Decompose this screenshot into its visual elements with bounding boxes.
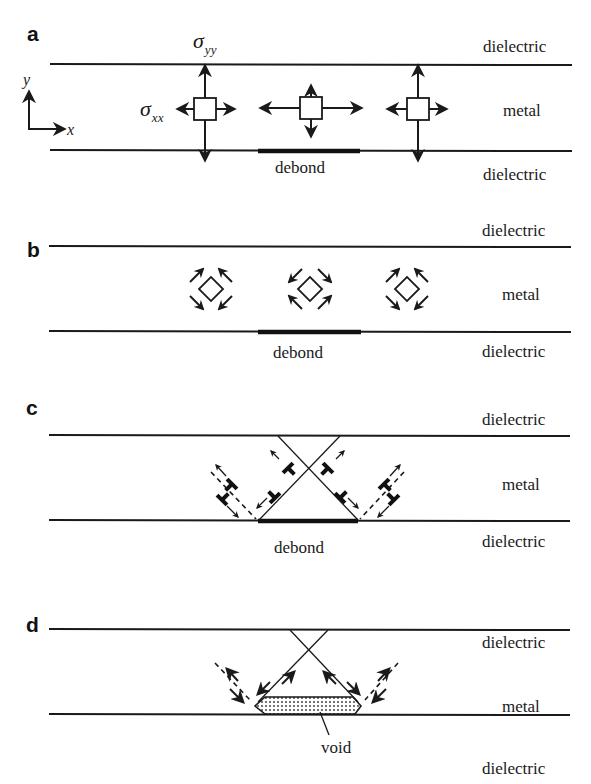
stress-element-1 <box>178 66 234 160</box>
panel-c: c dielectric metal dielectric debond <box>26 396 570 557</box>
slip-plane-1 <box>278 436 358 520</box>
stress-void-diagram: a dielectric metal dielectric debond y x… <box>0 0 591 784</box>
svg-text:σxx: σxx <box>140 96 164 125</box>
panel-label-d: d <box>26 613 39 636</box>
middle-layer-label: metal <box>503 101 541 120</box>
stress-element-3 <box>388 66 446 160</box>
stress-element-2 <box>261 86 361 136</box>
top-interface-line <box>50 64 572 65</box>
slip-plane-1 <box>290 630 358 702</box>
svg-text:σyy: σyy <box>193 28 217 57</box>
top-layer-label: dielectric <box>482 410 546 429</box>
top-interface-line <box>49 629 570 630</box>
sigma-yy-label: σyy <box>193 28 217 57</box>
top-layer-label: dielectric <box>482 221 546 240</box>
sigma-xx-label: σxx <box>140 96 164 125</box>
middle-layer-label: metal <box>502 285 540 304</box>
coordinate-axes-icon: y x <box>21 71 74 138</box>
shear-element-1 <box>190 269 232 309</box>
slip-plane-2 <box>259 436 340 520</box>
top-interface-line <box>49 246 571 247</box>
slip-plane-2 <box>258 630 328 702</box>
middle-layer-label: metal <box>502 697 540 716</box>
debond-label: debond <box>273 343 324 362</box>
panel-d: d dielectric metal dielectric void <box>26 613 570 778</box>
void-label: void <box>321 738 352 757</box>
panel-label-a: a <box>27 22 39 45</box>
top-layer-label: dielectric <box>482 633 546 652</box>
shear-element-3 <box>386 269 428 309</box>
top-layer-label: dielectric <box>483 37 547 56</box>
panel-label-c: c <box>26 396 38 419</box>
x-axis-label: x <box>66 121 74 138</box>
bottom-layer-label: dielectric <box>482 759 546 778</box>
debond-label: debond <box>274 538 325 557</box>
bottom-layer-label: dielectric <box>482 342 546 361</box>
void-region <box>255 697 361 714</box>
panel-label-b: b <box>27 238 40 261</box>
panel-a: a dielectric metal dielectric debond y x… <box>21 22 572 184</box>
shear-element-2 <box>289 269 331 309</box>
y-axis-label: y <box>21 71 31 89</box>
top-interface-line <box>49 435 570 436</box>
bottom-layer-label: dielectric <box>483 165 547 184</box>
debond-label: debond <box>275 158 326 177</box>
panel-b: b dielectric metal dielectric debond <box>27 221 571 362</box>
middle-layer-label: metal <box>502 475 540 494</box>
bottom-layer-label: dielectric <box>482 532 546 551</box>
glide-arrows <box>215 663 398 702</box>
